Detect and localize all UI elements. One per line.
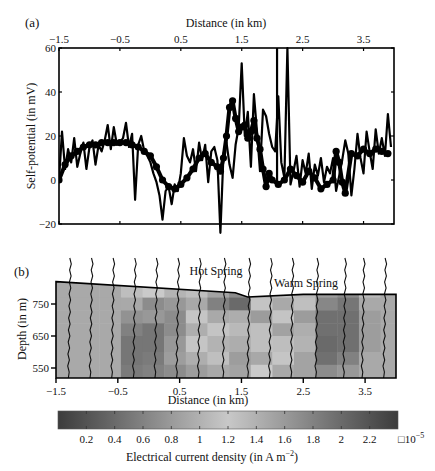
- panel-b-ylabel: Depth (in m): [15, 298, 29, 360]
- data-marker: [153, 163, 160, 170]
- data-marker: [259, 165, 266, 172]
- x-tick-label: 3.5: [357, 33, 371, 45]
- heatmap-cell: [381, 310, 397, 323]
- data-marker: [220, 154, 227, 161]
- data-marker: [305, 168, 312, 175]
- x-tick-label: −0.5: [108, 385, 128, 397]
- colorbar-tick-label: 2.2: [363, 433, 377, 445]
- heatmap-cell: [143, 352, 165, 365]
- heatmap-cell: [78, 298, 100, 311]
- heatmap-cell: [56, 270, 78, 298]
- heatmap-cell: [381, 298, 397, 311]
- heatmap-cell: [143, 336, 165, 353]
- heatmap-cell: [121, 310, 143, 323]
- colorbar-tick-label: 0.6: [136, 433, 150, 445]
- heatmap-cell: [121, 336, 143, 353]
- colorbar: 0.20.40.60.811.21.41.61.822.2 □10−5 Elec…: [58, 411, 424, 464]
- heatmap-cell: [359, 298, 381, 311]
- data-marker: [366, 150, 373, 157]
- panel-b-current-density-section: (b) −1.5−0.50.51.52.53.5 550650750 Depth…: [14, 258, 397, 407]
- data-marker: [250, 117, 257, 124]
- data-marker: [311, 174, 318, 181]
- data-marker: [253, 135, 260, 142]
- data-marker: [384, 150, 391, 157]
- panel-a-xlabel: Distance (in km): [186, 16, 267, 30]
- panel-a-ylabel: Self-potential (in mV): [24, 83, 38, 190]
- heatmap-cell: [294, 323, 316, 336]
- data-marker: [360, 146, 367, 153]
- heatmap-cell: [316, 298, 338, 311]
- heatmap-cell: [99, 323, 121, 336]
- colorbar-tick-label: 1.6: [278, 433, 292, 445]
- y-tick-label: 0: [51, 174, 57, 186]
- colorbar-tick-label: 1.2: [221, 433, 235, 445]
- data-marker: [299, 179, 306, 186]
- heatmap-cell: [164, 323, 186, 336]
- data-marker: [317, 185, 324, 192]
- heatmap-cell: [99, 352, 121, 365]
- heatmap-cell: [294, 310, 316, 323]
- data-marker: [229, 97, 236, 104]
- heatmap-cell: [78, 323, 100, 336]
- colorbar-tick-label: 1.8: [306, 433, 320, 445]
- heatmap-cell: [78, 352, 100, 365]
- data-marker: [223, 132, 230, 139]
- colorbar-tick-label: 0.2: [79, 433, 93, 445]
- data-marker: [208, 159, 215, 166]
- data-marker: [135, 143, 142, 150]
- heatmap-cell: [316, 336, 338, 353]
- y-tick-label: 750: [33, 298, 50, 310]
- panel-a-label: (a): [25, 15, 39, 30]
- heatmap-cell: [207, 336, 229, 353]
- heatmap-cell: [56, 310, 78, 323]
- heatmap-cell: [121, 352, 143, 365]
- heatmap-cell: [186, 298, 208, 311]
- data-marker: [202, 150, 209, 157]
- data-marker: [177, 181, 184, 188]
- y-tick-label: 60: [45, 42, 57, 54]
- colorbar-tick-label: 1.4: [249, 433, 263, 445]
- data-marker: [68, 152, 75, 159]
- data-marker: [244, 135, 251, 142]
- x-tick-label: 2.5: [296, 385, 310, 397]
- data-marker: [275, 181, 282, 188]
- heatmap-cell: [56, 352, 78, 365]
- heatmap-cell: [78, 310, 100, 323]
- heatmap-cell: [143, 323, 165, 336]
- data-marker: [293, 172, 300, 179]
- heatmap-cell: [207, 298, 229, 311]
- x-tick-label: 2.5: [296, 33, 310, 45]
- heatmap-cell: [381, 336, 397, 353]
- panel-a-x-ticks: −1.5−0.50.51.52.53.5: [49, 33, 371, 224]
- data-marker: [262, 183, 269, 190]
- heatmap-cell: [99, 298, 121, 311]
- panel-a-self-potential-plot: (a) Distance (in km) −1.5−0.50.51.52.53.…: [24, 15, 394, 233]
- heatmap-cell: [99, 336, 121, 353]
- data-marker: [61, 161, 68, 168]
- hot-spring-annotation: Hot Spring: [189, 264, 242, 278]
- data-marker: [247, 128, 254, 135]
- y-tick-label: −20: [39, 218, 57, 230]
- data-marker: [232, 115, 239, 122]
- heatmap-cell: [186, 336, 208, 353]
- heatmap-cell: [56, 336, 78, 353]
- colorbar-tick-label: 1: [197, 433, 203, 445]
- heatmap-cell: [143, 310, 165, 323]
- heatmap-cell: [186, 310, 208, 323]
- heatmap-cell: [316, 323, 338, 336]
- colorbar-tick-label: 2: [339, 433, 345, 445]
- heatmap-cell: [207, 352, 229, 365]
- heatmap-cell: [381, 323, 397, 336]
- heatmap-cell: [337, 310, 359, 323]
- x-tick-label: −0.5: [110, 33, 130, 45]
- data-marker: [256, 146, 263, 153]
- heatmap-cell: [56, 298, 78, 311]
- data-marker: [266, 170, 273, 177]
- heatmap-cell: [316, 352, 338, 365]
- heatmap-cell: [164, 310, 186, 323]
- panel-a-y-ticks: −200204060: [39, 42, 394, 230]
- heatmap-cell: [337, 323, 359, 336]
- heatmap-cell: [121, 323, 143, 336]
- heatmap-cell: [186, 352, 208, 365]
- heatmap-cell: [294, 336, 316, 353]
